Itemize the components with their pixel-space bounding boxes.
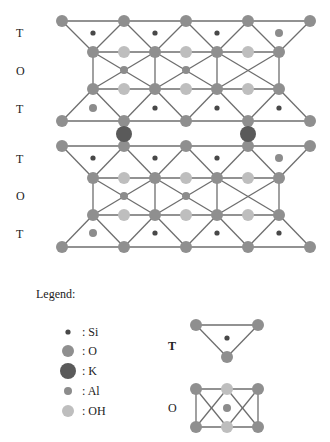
atom-o [180,241,192,253]
atom-o [190,383,202,395]
atom-si [214,230,219,235]
bond-line [62,215,93,247]
atom-o [304,115,316,127]
atom-o [242,115,254,127]
legend-item-oh: : OH [62,404,106,418]
atom-oh [180,172,192,184]
layer-labels: TOTTOT [16,26,25,241]
atom-oh [221,421,233,433]
bond-line [227,325,258,357]
bond-line [124,21,155,52]
atom-o [211,46,223,58]
atom-o [87,83,99,95]
layer-label-o: O [16,64,25,78]
atom-o [56,140,68,152]
bond-line [62,89,93,121]
atom-k [240,126,256,142]
legend-item-label: : O [82,344,97,358]
atom-o [273,209,285,221]
atom-o [304,140,316,152]
bond-line [186,146,217,178]
atoms [56,15,316,253]
atom-al [275,29,283,37]
atom-k [60,363,76,379]
bond-line [217,215,248,247]
atom-al [120,66,128,74]
legend-item-label: : K [82,364,97,378]
bond-line [155,21,186,52]
atom-si [90,155,95,160]
atom-o [149,83,161,95]
atom-oh [242,172,254,184]
layer-label-t: T [16,227,24,241]
atom-si [152,30,157,35]
bond-line [217,21,248,52]
bond-line [248,89,279,121]
bond-line [93,146,124,178]
atom-o [149,172,161,184]
atom-o [180,115,192,127]
bond-line [62,146,93,178]
atom-oh [180,83,192,95]
atom-al [275,154,283,162]
bond-line [248,21,279,52]
atom-oh [118,209,130,221]
bond-line [93,21,124,52]
bond-line [155,146,186,178]
bond-line [279,146,310,178]
atom-oh [242,209,254,221]
atom-si [65,329,70,334]
atom-oh [118,83,130,95]
atom-al [182,66,190,74]
atom-o [304,241,316,253]
legend-item-label: : Si [82,325,99,339]
atom-oh [221,383,233,395]
atom-o [87,46,99,58]
legend: Legend: : Si: O: K: Al: OH TO [36,287,264,433]
atom-o [273,172,285,184]
atom-o [56,15,68,27]
atom-si [214,105,219,110]
atom-o [252,319,264,331]
layer-label-t: T [16,102,24,116]
atom-al [120,192,128,200]
atom-si [152,230,157,235]
legend-tetrahedron: T [168,319,264,363]
bond-line [196,325,227,357]
atom-o [87,209,99,221]
bond-line [217,89,248,121]
atom-o [180,140,192,152]
atom-k [116,126,132,142]
atom-o [273,83,285,95]
atom-o [56,115,68,127]
atom-si [152,155,157,160]
atom-si [224,335,229,340]
atom-o [252,421,264,433]
legend-title: Legend: [36,287,75,301]
atom-o [180,15,192,27]
atom-oh [242,46,254,58]
atom-si [152,105,157,110]
bond-line [248,215,279,247]
atom-al [89,229,97,237]
atom-o [62,345,74,357]
atom-si [214,30,219,35]
atom-o [56,241,68,253]
legend-tetrahedron-label: T [168,339,176,353]
atom-o [304,15,316,27]
atom-si [90,30,95,35]
atom-o [118,241,130,253]
legend-item-o: : O [62,344,97,358]
legend-item-si: : Si [65,325,99,339]
bond-line [248,146,279,178]
bond-line [93,89,124,121]
legend-item-k: : K [60,363,97,379]
atom-si [276,105,281,110]
bond-line [217,146,248,178]
atom-oh [242,83,254,95]
atom-o [149,46,161,58]
atom-o [87,172,99,184]
atom-o [118,15,130,27]
atom-o [252,383,264,395]
atom-oh [118,46,130,58]
